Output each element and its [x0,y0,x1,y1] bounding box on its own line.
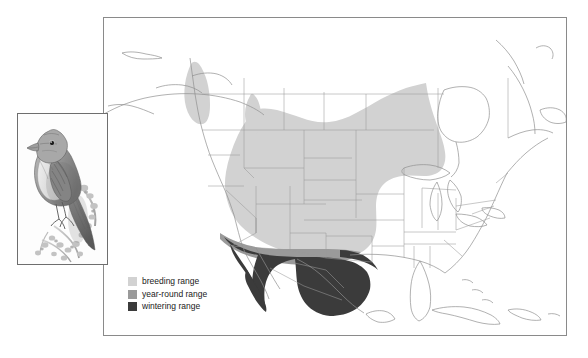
sparrow-illustration [18,114,107,264]
legend-item-year-round: year-round range [128,289,238,300]
hudson-bay [438,87,490,143]
lake-michigan [430,182,442,221]
puerto-rico [548,314,560,316]
border-va-md [472,206,494,214]
bahamas-1 [462,280,473,283]
legend-label-year-round: year-round range [142,290,207,299]
legend-swatch-year-round [128,290,137,299]
border-ny-ne [496,173,508,183]
bird-illustration-panel [17,113,108,265]
arctic-island-ne [536,46,553,59]
hispaniola [508,309,541,320]
bahamas-2 [472,290,483,293]
legend-item-breeding: breeding range [128,276,238,287]
breeding-range-bc [184,62,210,125]
bahamas-3 [482,300,493,303]
james-bay [451,142,459,177]
map-legend: breeding range year-round range winterin… [128,276,238,314]
lake-huron [448,180,462,212]
alaska-panhandle [108,105,154,115]
alaska-coast [122,52,162,59]
legend-label-breeding: breeding range [142,277,199,286]
canada-arctic-coast [104,94,264,115]
range-map-figure: breeding range year-round range winterin… [0,0,588,358]
legend-item-wintering: wintering range [128,301,238,312]
st-lawrence [508,130,553,138]
legend-swatch-wintering [128,302,137,311]
border-nc-va [456,218,490,230]
cuba [432,307,500,325]
legend-label-wintering: wintering range [142,302,200,311]
border-ca-az [232,233,256,246]
legend-swatch-breeding [128,277,137,286]
border-ga-sc [444,240,462,256]
baffin-coast [496,40,524,84]
yucatan [366,311,395,323]
northeast-coast [507,138,548,173]
bird-eye-highlight [50,141,52,143]
florida [410,261,430,321]
bird-eye [49,140,54,145]
newfoundland [540,108,566,124]
border-pa-ny [456,200,496,206]
